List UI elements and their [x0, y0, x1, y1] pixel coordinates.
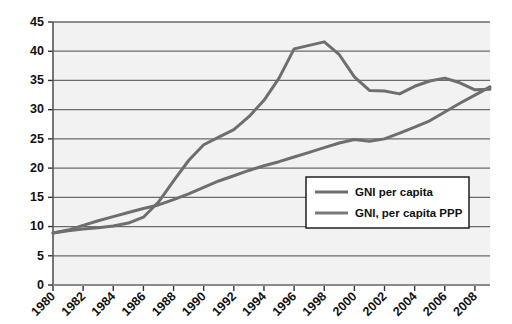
y-axis-tick-label: 0 [37, 278, 44, 292]
legend-label-gni-per-capita-ppp: GNI, per capita PPP [355, 207, 463, 219]
plot-area-background [53, 22, 490, 285]
y-axis-tick-label: 5 [37, 249, 44, 263]
y-axis-tick-label: 20 [30, 161, 44, 175]
y-axis-tick-label: 10 [30, 219, 44, 233]
y-axis-tick-label: 15 [30, 190, 44, 204]
y-axis-tick-label: 45 [30, 15, 44, 29]
y-axis-tick-label: 30 [30, 102, 44, 116]
legend-label-gni-per-capita: GNI per capita [355, 186, 434, 198]
y-axis-tick-label: 25 [30, 132, 44, 146]
line-chart: 051015202530354045 198019821984198619881… [0, 0, 512, 324]
chart-container: 051015202530354045 198019821984198619881… [0, 0, 512, 324]
chart-legend: GNI per capita GNI, per capita PPP [306, 177, 469, 228]
y-axis-tick-label: 40 [30, 44, 44, 58]
y-axis-tick-label: 35 [30, 73, 44, 87]
